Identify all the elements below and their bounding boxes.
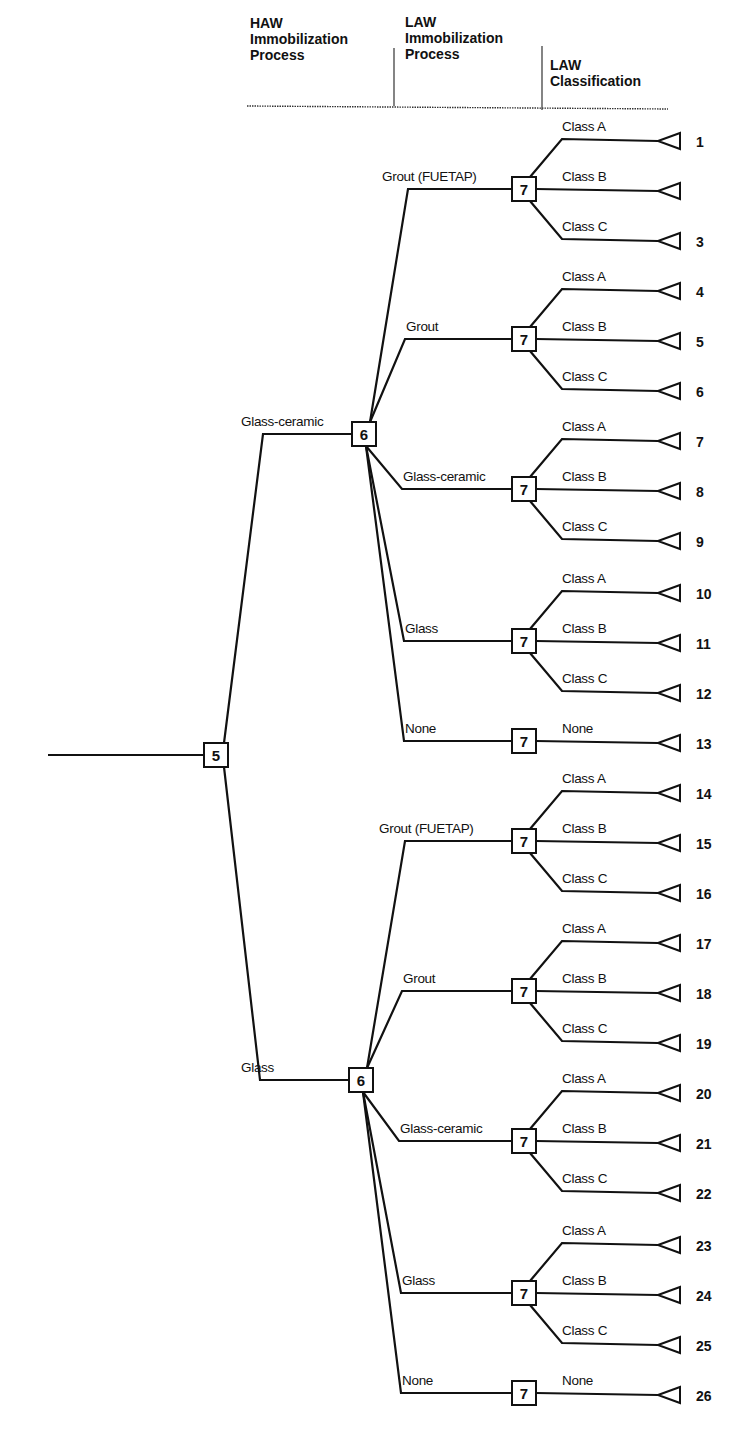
outcome-label: Class A bbox=[562, 571, 606, 586]
outcome-label: Class C bbox=[562, 671, 608, 686]
header-law-process-line2: Immobilization bbox=[405, 30, 503, 46]
outcome-label: Class C bbox=[562, 369, 608, 384]
tree-nodes: 5677777677777 bbox=[204, 133, 680, 1405]
law-branch-label: None bbox=[405, 721, 436, 736]
branch-edge-0 bbox=[224, 434, 352, 743]
outcome-edge bbox=[536, 641, 658, 643]
outcome-number: 18 bbox=[696, 986, 712, 1002]
outcome-edge bbox=[536, 991, 658, 993]
decision-node-7-label: 7 bbox=[520, 1133, 528, 1150]
terminal-triangle-icon bbox=[658, 1035, 680, 1051]
outcome-label: Class B bbox=[562, 1121, 607, 1136]
header-law-class-line1: LAW bbox=[550, 57, 582, 73]
terminal-triangle-icon bbox=[658, 383, 680, 399]
outcome-edge bbox=[536, 489, 658, 491]
outcome-label: Class A bbox=[562, 921, 606, 936]
haw-branch-label: Glass bbox=[241, 1060, 275, 1075]
outcome-number: 17 bbox=[696, 936, 712, 952]
outcome-number: 14 bbox=[696, 786, 712, 802]
decision-node-7: 7 bbox=[512, 1381, 536, 1405]
decision-node-7: 7 bbox=[512, 1129, 536, 1153]
outcome-label: Class B bbox=[562, 621, 607, 636]
outcome-number: 10 bbox=[696, 586, 712, 602]
law-branch-label: Glass-ceramic bbox=[400, 1121, 483, 1136]
decision-node-7-label: 7 bbox=[520, 481, 528, 498]
decision-node-7: 7 bbox=[512, 327, 536, 351]
terminal-triangle-icon bbox=[658, 1387, 680, 1403]
outcome-edge bbox=[536, 841, 658, 843]
header-law-process-line3: Process bbox=[405, 46, 460, 62]
terminal-triangle-icon bbox=[658, 1185, 680, 1201]
outcome-number: 3 bbox=[696, 234, 704, 250]
law-branch-edge bbox=[370, 339, 512, 422]
law-branch-edge bbox=[370, 189, 512, 422]
terminal-triangle-icon bbox=[658, 835, 680, 851]
outcome-label: Class B bbox=[562, 169, 607, 184]
terminal-triangle-icon bbox=[658, 785, 680, 801]
terminal-triangle-icon bbox=[658, 483, 680, 499]
outcome-number: 23 bbox=[696, 1238, 712, 1254]
terminal-triangle-icon bbox=[658, 635, 680, 651]
decision-node-5-label: 5 bbox=[212, 747, 220, 764]
outcome-edge bbox=[536, 1393, 658, 1395]
outcome-number: 25 bbox=[696, 1338, 712, 1354]
outcome-number: 22 bbox=[696, 1186, 712, 1202]
outcome-number: 7 bbox=[696, 434, 704, 450]
terminal-triangle-icon bbox=[658, 885, 680, 901]
outcome-label: Class A bbox=[562, 1223, 606, 1238]
decision-tree: HAW Immobilization Process LAW Immobiliz… bbox=[0, 0, 740, 1431]
decision-node-7-label: 7 bbox=[520, 733, 528, 750]
outcome-number: 1 bbox=[696, 134, 704, 150]
law-branch-label: Grout (FUETAP) bbox=[382, 169, 477, 184]
outcome-number: 12 bbox=[696, 686, 712, 702]
outcome-edge bbox=[536, 741, 658, 743]
header-law-class-line2: Classification bbox=[550, 73, 641, 89]
outcome-label: Class B bbox=[562, 319, 607, 334]
column-headers: HAW Immobilization Process LAW Immobiliz… bbox=[247, 14, 668, 110]
outcome-edge bbox=[536, 189, 658, 191]
outcome-number: 4 bbox=[696, 284, 704, 300]
law-branch-label: Grout bbox=[403, 971, 436, 986]
decision-node-6: 6 bbox=[349, 1068, 373, 1092]
terminal-triangle-icon bbox=[658, 935, 680, 951]
decision-node-7: 7 bbox=[512, 629, 536, 653]
outcome-label: Class B bbox=[562, 821, 607, 836]
outcome-label: None bbox=[562, 721, 593, 736]
law-branch-edge bbox=[367, 841, 512, 1068]
outcome-number: 5 bbox=[696, 334, 704, 350]
outcome-label: Class A bbox=[562, 771, 606, 786]
outcome-edge bbox=[536, 1293, 658, 1295]
outcome-label: Class C bbox=[562, 219, 608, 234]
header-haw-line3: Process bbox=[250, 47, 305, 63]
decision-node-7-label: 7 bbox=[520, 983, 528, 1000]
decision-node-6-label: 6 bbox=[357, 1072, 365, 1089]
terminal-triangle-icon bbox=[658, 1237, 680, 1253]
outcome-number: 21 bbox=[696, 1136, 712, 1152]
outcome-label: Class A bbox=[562, 269, 606, 284]
terminal-triangle-icon bbox=[658, 233, 680, 249]
outcome-number: 11 bbox=[696, 636, 711, 652]
outcome-label: Class C bbox=[562, 1021, 608, 1036]
decision-node-7-label: 7 bbox=[520, 1385, 528, 1402]
header-haw-line2: Immobilization bbox=[250, 31, 348, 47]
terminal-triangle-icon bbox=[658, 133, 680, 149]
outcome-number: 26 bbox=[696, 1388, 712, 1404]
terminal-triangle-icon bbox=[658, 735, 680, 751]
terminal-triangle-icon bbox=[658, 585, 680, 601]
outcome-number: 20 bbox=[696, 1086, 712, 1102]
outcome-number: 19 bbox=[696, 1036, 712, 1052]
outcome-label: Class B bbox=[562, 469, 607, 484]
header-law-process-line1: LAW bbox=[405, 14, 437, 30]
decision-node-7: 7 bbox=[512, 177, 536, 201]
law-branch-label: Grout bbox=[406, 319, 439, 334]
terminal-triangle-icon bbox=[658, 1085, 680, 1101]
outcome-label: Class A bbox=[562, 1071, 606, 1086]
terminal-triangle-icon bbox=[658, 283, 680, 299]
outcome-label: Class B bbox=[562, 971, 607, 986]
terminal-triangle-icon bbox=[658, 685, 680, 701]
decision-node-6: 6 bbox=[352, 422, 376, 446]
terminal-triangle-icon bbox=[658, 533, 680, 549]
law-branch-label: Glass bbox=[402, 1273, 436, 1288]
outcome-label: Class C bbox=[562, 1323, 608, 1338]
header-underline bbox=[247, 106, 668, 109]
